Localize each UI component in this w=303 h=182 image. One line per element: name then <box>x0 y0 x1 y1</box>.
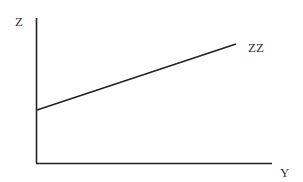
z-axis-label: Z <box>15 15 23 28</box>
zz-line <box>37 44 236 110</box>
diagram-canvas: Z ZZ Y <box>0 0 303 182</box>
zz-line-label: ZZ <box>248 41 264 54</box>
y-axis-label: Y <box>280 166 289 179</box>
diagram-svg <box>0 0 303 182</box>
